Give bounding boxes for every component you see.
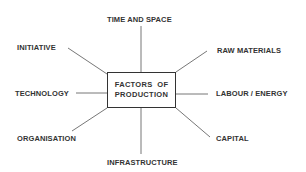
label-time-and-space: TIME AND SPACE — [107, 15, 172, 24]
center-title-line2: PRODUCTION — [115, 90, 168, 100]
connector-raw-materials — [176, 51, 207, 72]
center-title-line1: FACTORS OF — [115, 80, 169, 90]
label-raw-materials: RAW MATERIALS — [217, 46, 281, 55]
label-capital: CAPITAL — [216, 134, 249, 143]
connector-initiative — [68, 48, 107, 74]
factors-of-production-diagram: FACTORS OF PRODUCTION TIME AND SPACE RAW… — [0, 0, 306, 172]
label-initiative: INITIATIVE — [17, 43, 56, 52]
label-labour-energy: LABOUR / ENERGY — [216, 89, 288, 98]
connector-capital — [176, 108, 210, 137]
connector-organisation — [72, 108, 107, 131]
center-box-factors-of-production: FACTORS OF PRODUCTION — [107, 72, 176, 108]
label-technology: TECHNOLOGY — [15, 89, 69, 98]
label-infrastructure: INFRASTRUCTURE — [107, 158, 178, 167]
label-organisation: ORGANISATION — [17, 134, 76, 143]
